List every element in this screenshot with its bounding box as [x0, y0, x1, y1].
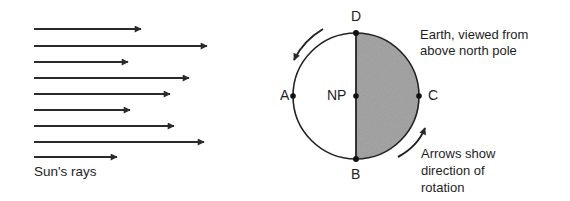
label-c: C [428, 88, 438, 103]
label-d: D [351, 9, 361, 24]
sun-rays-group [34, 29, 207, 157]
earth-caption-line-2: above north pole [420, 43, 517, 58]
label-np: NP [327, 88, 346, 103]
point-d-dot [353, 30, 359, 36]
label-a: A [280, 88, 289, 103]
rotation-caption-line-1: Arrows show [421, 146, 495, 161]
label-b: B [351, 167, 360, 182]
point-b-dot [353, 156, 359, 162]
rotation-caption-line-3: rotation [421, 180, 464, 195]
sun-rays-label: Sun's rays [34, 164, 97, 179]
point-a-dot [290, 93, 296, 99]
earth-caption-line-1: Earth, viewed from [420, 27, 528, 42]
north-pole-dot [353, 93, 359, 99]
night-side-texture [356, 33, 419, 159]
rotation-caption-line-2: direction of [421, 163, 485, 178]
point-c-dot [416, 93, 422, 99]
earth-diagram [290, 30, 422, 162]
